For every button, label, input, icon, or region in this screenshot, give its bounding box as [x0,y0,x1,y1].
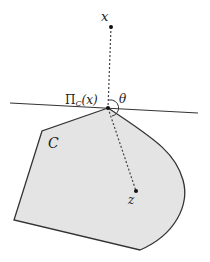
label-x: x [101,9,109,24]
projection-diagram: x ΠC(x) θ C z [0,0,210,262]
label-projection: ΠC(x) [65,93,98,108]
point-z [134,189,138,193]
convex-set-c [14,108,185,250]
dashed-x-to-projection [108,27,111,108]
label-set-c: C [48,135,59,151]
point-x [109,25,113,29]
label-theta: θ [119,92,127,106]
label-projection-pi: Π [65,93,75,107]
point-projection [106,106,110,110]
label-z: z [127,193,135,207]
label-projection-arg: (x) [82,93,98,107]
